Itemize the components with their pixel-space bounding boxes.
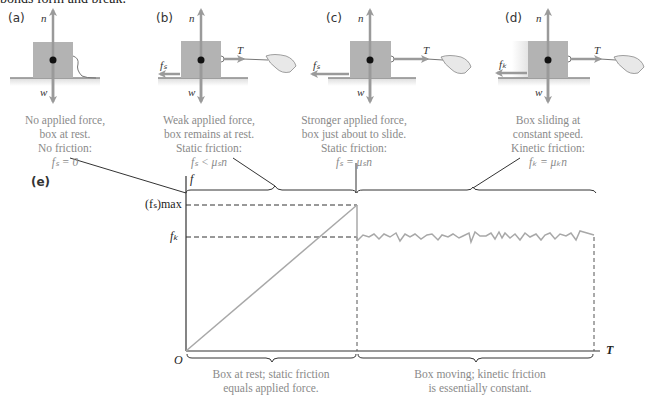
panel-label-b: (b)	[156, 11, 173, 25]
caption-b-line2: box remains at rest.	[134, 127, 284, 141]
normal-force-label-c: n	[358, 12, 364, 24]
y-axis-label: f	[190, 172, 193, 187]
caption-a-line1: No applied force,	[0, 113, 140, 127]
caption-static-line1: Box at rest; static friction	[196, 367, 346, 381]
weight-label-b: w	[188, 86, 195, 98]
caption-c-line1: Stronger applied force,	[279, 113, 429, 127]
free-body-diagrams	[0, 0, 651, 403]
caption-static-line2: equals applied force.	[196, 381, 346, 395]
weight-label-c: w	[357, 86, 364, 98]
caption-c-equation: fₛ = μₛn	[279, 155, 429, 169]
caption-kinetic-line2: is essentially constant.	[400, 381, 560, 395]
friction-label-b: fₛ	[160, 59, 167, 72]
panel-label-d: (d)	[505, 11, 522, 25]
friction-graph	[70, 158, 600, 362]
tension-label-d: T	[594, 44, 600, 56]
panel-label-c: (c)	[326, 11, 342, 25]
friction-label-d: fₖ	[499, 58, 507, 71]
friction-label-c: fₛ	[313, 59, 320, 72]
caption-d: Box sliding at constant speed. Kinetic f…	[473, 113, 623, 169]
tension-label-c: T	[423, 44, 429, 56]
fk-label: fₖ	[170, 229, 178, 244]
normal-force-label-a: n	[41, 12, 47, 24]
caption-a-line3: No friction:	[0, 141, 140, 155]
origin-label: O	[174, 353, 183, 368]
panel-b	[158, 10, 296, 102]
caption-b-line3: Static friction:	[134, 141, 284, 155]
weight-label-a: w	[40, 86, 47, 98]
caption-d-equation: fₖ = μₖn	[473, 155, 623, 169]
weight-label-d: w	[535, 86, 542, 98]
normal-force-label-d: n	[536, 12, 542, 24]
tension-label-b: T	[237, 44, 243, 56]
caption-b: Weak applied force, box remains at rest.…	[134, 113, 284, 169]
caption-d-line2: constant speed.	[473, 127, 623, 141]
caption-b-equation: fₛ < μₛn	[134, 155, 284, 169]
fs-max-label: (fₛ)max	[145, 197, 182, 212]
caption-static-region: Box at rest; static friction equals appl…	[196, 367, 346, 395]
panel-label-e: (e)	[31, 175, 50, 189]
caption-d-line3: Kinetic friction:	[473, 141, 623, 155]
caption-c: Stronger applied force, box just about t…	[279, 113, 429, 169]
caption-d-line1: Box sliding at	[473, 113, 623, 127]
caption-a: No applied force, box at rest. No fricti…	[0, 113, 140, 169]
panel-label-a: (a)	[8, 11, 25, 25]
caption-kinetic-region: Box moving; kinetic friction is essentia…	[400, 367, 560, 395]
normal-force-label-b: n	[189, 12, 195, 24]
caption-c-line2: box just about to slide.	[279, 127, 429, 141]
caption-a-line2: box at rest.	[0, 127, 140, 141]
caption-a-equation: fₛ = 0	[0, 155, 140, 169]
caption-c-line3: Static friction:	[279, 141, 429, 155]
x-axis-label: T	[606, 343, 613, 358]
caption-kinetic-line1: Box moving; kinetic friction	[400, 367, 560, 381]
caption-b-line1: Weak applied force,	[134, 113, 284, 127]
